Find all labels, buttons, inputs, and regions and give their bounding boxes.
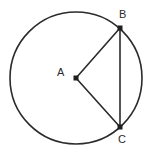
point-label-a: A [57, 67, 64, 78]
radius-segment-ac [76, 78, 120, 127]
point-marker-a [74, 76, 79, 81]
point-marker-b [118, 26, 123, 31]
point-marker-c [118, 125, 123, 130]
point-label-c: C [118, 134, 126, 145]
circle-diagram-figure: A B C [0, 0, 151, 156]
geometry-canvas [0, 0, 151, 156]
radius-segment-ab [76, 28, 120, 78]
point-label-b: B [119, 9, 126, 20]
